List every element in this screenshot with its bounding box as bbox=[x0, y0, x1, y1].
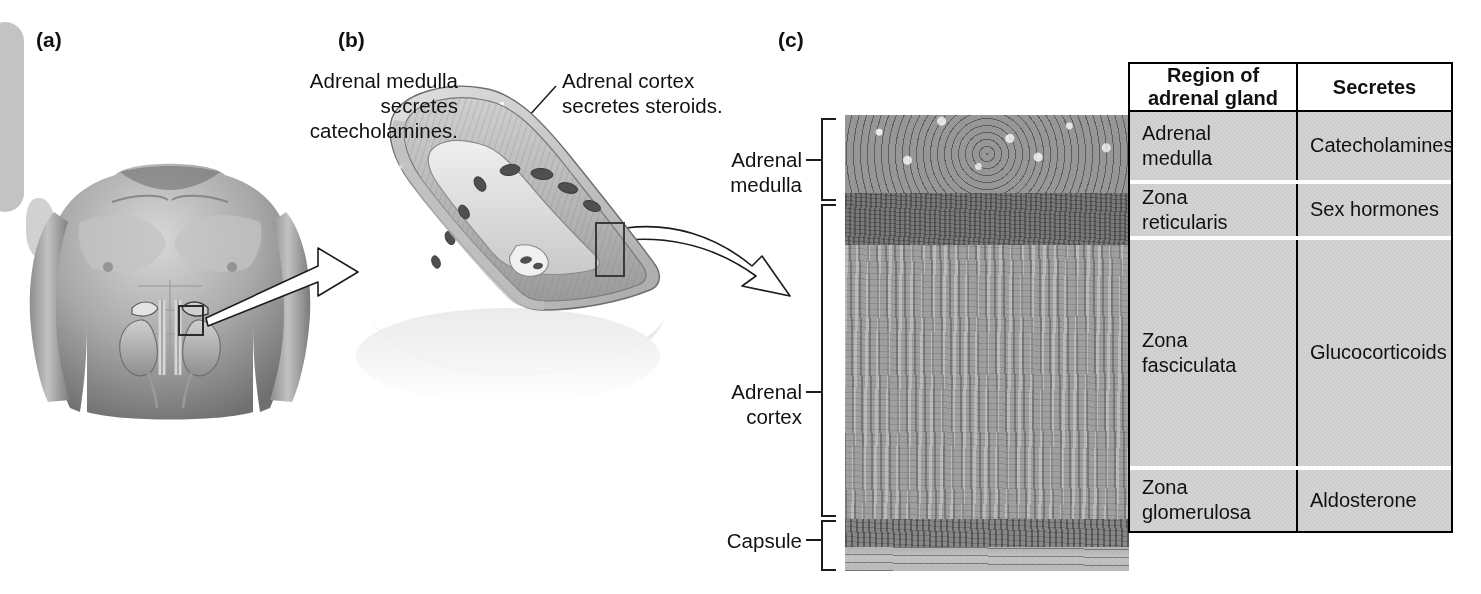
table-row: Zona glomerulosa Aldosterone bbox=[1130, 468, 1451, 531]
panel-letter-a: (a) bbox=[36, 28, 62, 52]
callout-adrenal-cortex: Adrenal cortex secretes steroids. bbox=[562, 68, 792, 118]
table-row: Zona reticularis Sex hormones bbox=[1130, 182, 1451, 238]
table-cell-secretes: Aldosterone bbox=[1297, 468, 1451, 531]
panel-letter-c: (c) bbox=[778, 28, 804, 52]
table-cell-region: Adrenal medulla bbox=[1130, 111, 1297, 182]
table-row: Adrenal medulla Catecholamines bbox=[1130, 111, 1451, 182]
table-cell-region: Zona glomerulosa bbox=[1130, 468, 1297, 531]
table-header-region: Region of adrenal gland bbox=[1130, 64, 1297, 111]
table-row: Zona fasciculata Glucocorticoids bbox=[1130, 238, 1451, 468]
micrograph-grain-overlay bbox=[845, 115, 1129, 571]
bracket-adrenal-medulla bbox=[822, 119, 836, 200]
bracket-capsule bbox=[822, 521, 836, 570]
table-cell-region: Zona reticularis bbox=[1130, 182, 1297, 238]
table-cell-secretes: Glucocorticoids bbox=[1297, 238, 1451, 468]
table-cell-secretes: Sex hormones bbox=[1297, 182, 1451, 238]
adrenal-secretions-table: Region of adrenal gland Secretes Adrenal… bbox=[1128, 62, 1453, 533]
bracket-adrenal-cortex bbox=[822, 205, 836, 516]
adrenal-gland-figure: (a) (b) (c) bbox=[0, 0, 1481, 594]
torso-illustration bbox=[20, 150, 320, 450]
callout-adrenal-medulla: Adrenal medulla secretes catecholamines. bbox=[236, 68, 458, 143]
zoom-box-panel-a bbox=[178, 305, 204, 336]
table-cell-region: Zona fasciculata bbox=[1130, 238, 1297, 468]
table-header-row: Region of adrenal gland Secretes bbox=[1130, 64, 1451, 111]
table-header-secretes: Secretes bbox=[1297, 64, 1451, 111]
bracket-label-adrenal-cortex: Adrenal cortex bbox=[636, 379, 802, 429]
table-cell-secretes: Catecholamines bbox=[1297, 111, 1451, 182]
adrenal-gland-micrograph bbox=[845, 115, 1129, 571]
panel-letter-b: (b) bbox=[338, 28, 365, 52]
bracket-label-capsule: Capsule bbox=[636, 528, 802, 553]
zoom-box-panel-b bbox=[595, 222, 625, 277]
bracket-label-adrenal-medulla: Adrenal medulla bbox=[636, 147, 802, 197]
